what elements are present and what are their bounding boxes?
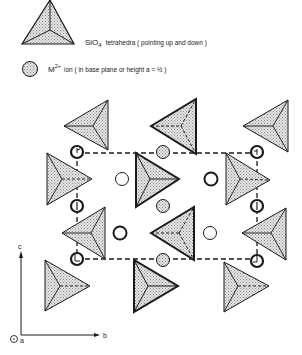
legend-ion-label: M2+ion ( in base plane or height a = ½ ) [48,63,166,74]
ion-open-bold [114,227,127,240]
tetrahedron-bold [136,153,179,207]
tetrahedron [243,100,288,152]
ion-shaded [157,146,170,159]
legend-tetrahedra-label: SiO4tetrahedra ( pointing up and down ) [85,38,207,48]
tetrahedron-row-3 [62,207,286,260]
b-axis-arrow-icon [94,333,100,337]
tetrahedron-row-4 [45,260,269,312]
legend: SiO4tetrahedra ( pointing up and down ) … [22,0,207,77]
tetrahedron-row-2 [47,153,270,207]
legend-ion-icon [23,62,38,77]
ion-open-bold [205,173,218,186]
tetrahedron [47,153,92,205]
legend-tetrahedron-icon [22,0,74,44]
tetrahedron [226,153,270,205]
ion-bold-marked [251,255,263,267]
ion-bold-marked [251,200,263,212]
ion-shaded [157,200,170,213]
olivine-structure-diagram: SiO4tetrahedra ( pointing up and down ) … [0,0,302,355]
ion-open [116,173,129,186]
ion-bold-marked [71,146,83,158]
ion-open [204,227,217,240]
a-axis-label: a [20,337,24,344]
ion-bold-marked [71,253,83,265]
tetrahedron [45,260,90,311]
c-axis-label: c [18,243,22,250]
c-axis-arrow-icon [19,251,23,258]
ion-bold-marked [251,146,263,158]
ion-bold-marked [71,200,83,212]
ion-shaded [157,254,170,267]
tetrahedron [64,100,108,150]
tetrahedron-bold [151,99,196,154]
tetrahedron [242,208,286,260]
tetrahedron [62,207,105,259]
tetrahedron-bold [134,260,178,312]
b-axis-label: b [103,332,107,339]
tetrahedron-bold [151,207,194,260]
tetrahedron [224,262,269,312]
